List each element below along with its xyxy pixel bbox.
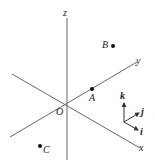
j-vector-label: j bbox=[139, 106, 144, 117]
y-axis bbox=[10, 62, 137, 137]
k-vector-label: k bbox=[120, 90, 125, 101]
point-a bbox=[90, 87, 94, 91]
j-vector-arrow bbox=[124, 113, 139, 122]
z-axis-label: z bbox=[62, 7, 67, 18]
diagram-svg: z y x O A B C k j i bbox=[0, 0, 155, 164]
unit-vectors: k j i bbox=[120, 90, 144, 137]
i-vector-label: i bbox=[140, 126, 143, 137]
x-axis bbox=[12, 74, 140, 148]
i-vector-arrow bbox=[124, 122, 138, 130]
point-b-label: B bbox=[102, 39, 108, 50]
y-axis-label: y bbox=[135, 55, 141, 66]
origin-label: O bbox=[56, 106, 63, 117]
point-c-label: C bbox=[43, 144, 50, 155]
point-b bbox=[111, 44, 115, 48]
coordinate-diagram: z y x O A B C k j i bbox=[0, 0, 155, 164]
x-axis-label: x bbox=[138, 142, 144, 153]
point-c bbox=[38, 144, 42, 148]
point-a-label: A bbox=[88, 92, 96, 103]
